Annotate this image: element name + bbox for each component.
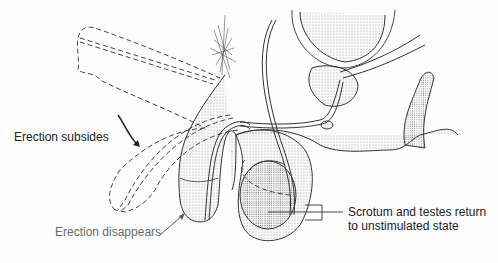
penis-flaccid bbox=[179, 75, 236, 222]
prostate bbox=[309, 66, 358, 107]
seminal-vesicle bbox=[321, 121, 333, 129]
label-erection-disappears: Erection disappears bbox=[55, 225, 161, 239]
curved-arrow bbox=[118, 115, 138, 145]
bladder bbox=[300, 12, 385, 62]
pubic-hair bbox=[210, 15, 236, 78]
label-erection-subsides: Erection subsides bbox=[14, 130, 109, 144]
rectum-anus bbox=[404, 72, 434, 148]
label-scrotum-line2: to unstimulated state bbox=[348, 219, 459, 233]
diagram: Erection subsides Erection disappears Sc… bbox=[0, 0, 498, 263]
label-scrotum-line1: Scrotum and testes return bbox=[348, 205, 486, 219]
disappears-arrow bbox=[160, 215, 183, 235]
